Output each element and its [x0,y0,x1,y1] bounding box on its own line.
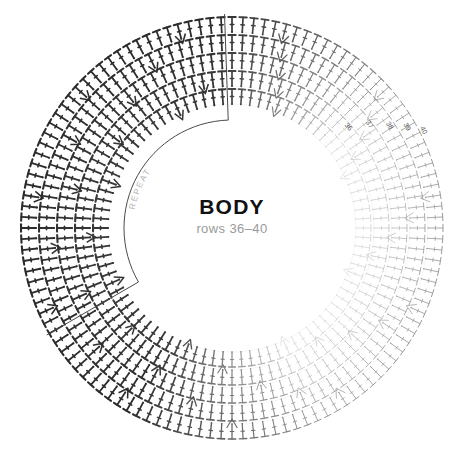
chain-connector-dot [344,279,345,280]
chain-connector-dot [302,410,303,411]
chain-connector-dot [133,57,135,59]
stitch-symbol-crossbar [312,400,319,403]
stitch-symbol-crossbar [268,94,274,96]
stitch-symbol-tick [311,60,314,62]
stitch-symbol-crossbar [250,18,257,19]
chain-connector-dot [336,294,337,295]
chain-connector-dot [54,207,56,209]
stitch-symbol-crossbar [344,49,350,53]
stitch-symbol-crossbar [153,30,160,33]
stitch-symbol-crossbar [261,37,268,38]
stitch-symbol-crossbar [423,246,424,253]
stitch-symbol-crossbar [304,343,310,347]
chain-connector-dot [338,63,339,64]
stitch-symbol-crossbar [101,176,103,182]
stitch-symbol-crossbar [197,55,204,56]
chain-connector-dot [344,314,345,315]
chain-connector-dot [302,104,303,105]
stitch-symbol-crossbar [167,390,174,393]
chain-connector-dot [94,310,96,312]
stitch-symbol-crossbar [143,34,150,37]
chain-connector-dot [231,31,233,33]
stitch-symbol-crossbar [422,257,423,264]
chain-connector-dot [298,332,299,333]
stitch-symbol-crossbar [260,55,267,56]
chain-connector-dot [201,403,203,405]
chain-connector-dot [221,49,223,51]
stitch-symbol-tick [262,27,266,28]
stitch-symbol-crossbar [174,23,181,25]
stitch-symbol-crossbar [423,310,426,317]
stitch-symbol-crossbar [198,381,205,382]
stitch-symbol-crossbar [385,144,388,150]
chain-connector-dot [357,129,358,130]
stitch-symbol-tick [288,89,291,90]
chain-connector-dot [193,72,195,74]
chain-connector-dot [39,186,41,188]
chain-connector-dot [353,254,354,255]
chain-connector-dot [71,150,73,152]
chain-connector-dot [192,401,194,403]
chain-connector-dot [310,109,311,110]
stitch-symbol-crossbar [177,394,184,396]
stitch-symbol-crossbar [283,23,290,25]
stitch-symbol-tick [425,289,426,292]
chain-connector-dot [396,159,397,160]
stitch-symbol-tick [33,269,34,273]
chain-connector-dot [45,166,47,168]
stitch-symbol-crossbar [385,306,388,312]
stitch-symbol-tick [169,403,172,404]
stitch-symbol-crossbar [369,205,370,212]
chain-connector-dot [150,133,152,135]
chain-connector-dot [213,86,215,88]
stitch-symbol-tick [378,256,379,259]
chain-connector-dot [116,386,118,388]
chain-connector-dot [390,247,391,248]
chain-connector-dot [89,153,91,155]
chain-connector-dot [111,333,113,335]
chain-connector-dot [240,103,242,105]
stitch-symbol-tick [157,37,160,38]
stitch-symbol-crossbar [399,131,403,137]
stitch-symbol-tick [293,34,296,35]
stitch-symbol-tick [69,186,70,189]
chain-connector-dot [99,318,101,320]
stitch-symbol-tick [182,369,185,370]
chain-connector-dot [152,109,154,111]
chain-connector-dot [389,199,390,200]
stitch-symbol-crossbar [270,57,277,59]
chain-connector-dot [128,372,130,374]
chain-connector-dot [143,315,145,317]
stitch-symbol-tick [396,196,397,199]
chain-connector-dot [182,56,184,58]
chain-connector-dot [336,160,337,161]
chain-connector-dot [272,419,273,420]
chain-connector-dot [137,308,139,310]
chain-connector-dot [373,237,374,238]
stitch-symbol-crossbar [206,437,213,438]
stitch-symbol-crossbar [248,90,255,91]
chain-connector-dot [115,270,117,272]
chain-connector-dot [94,190,96,192]
chain-connector-dot [271,54,273,56]
stitch-symbol-crossbar [148,71,154,74]
chain-connector-dot [249,350,250,351]
chain-connector-dot [182,398,184,400]
stitch-symbol-crossbar [178,78,185,80]
chain-connector-dot [132,153,134,155]
stitch-symbol-crossbar [184,434,191,436]
stitch-symbol-tick [75,286,76,289]
stitch-symbol-crossbar [353,396,359,400]
stitch-symbol-crossbar [157,386,164,389]
chain-connector-dot [241,67,243,69]
stitch-symbol-crossbar [94,205,95,212]
chain-connector-dot [110,201,112,203]
stitch-symbol-crossbar [313,115,318,119]
chain-connector-dot [306,369,307,370]
stitch-symbol-crossbar [441,246,442,253]
stitch-symbol-crossbar [347,300,351,306]
chain-connector-dot [249,104,251,106]
chain-connector-dot [423,187,424,188]
chain-connector-dot [212,68,214,70]
stitch-symbol-tick [41,153,42,156]
